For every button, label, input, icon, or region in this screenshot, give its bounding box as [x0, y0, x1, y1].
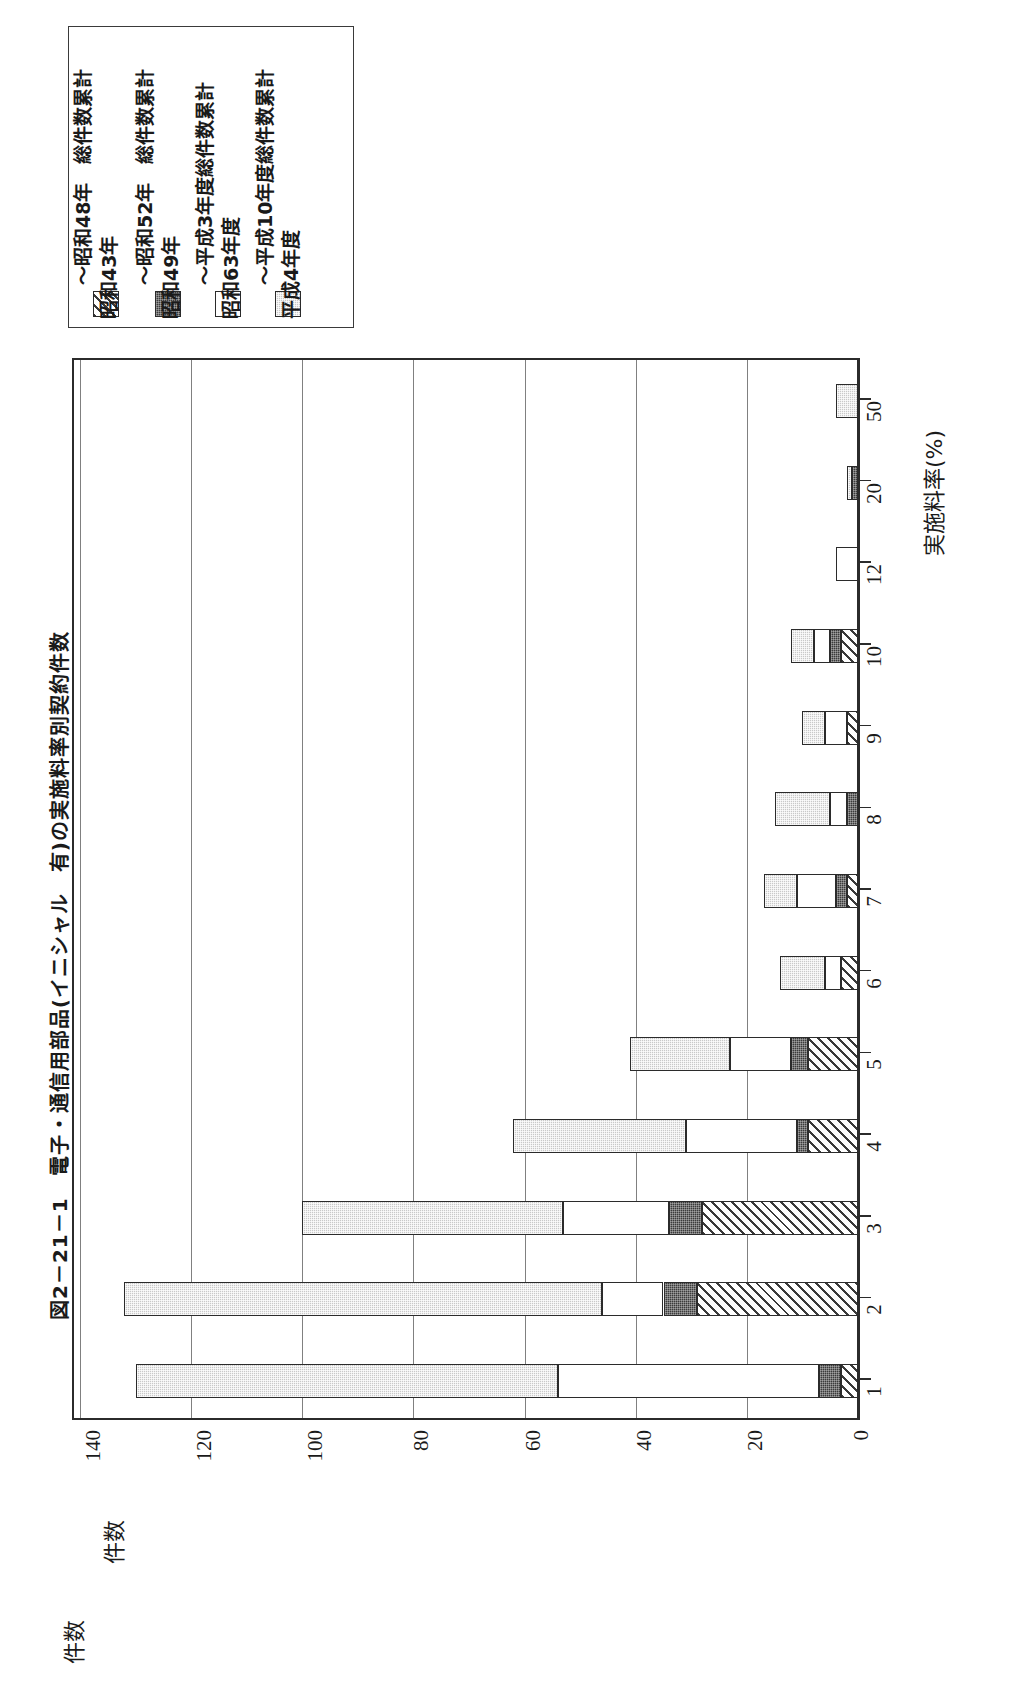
- category-tick: [860, 1297, 871, 1299]
- category-tick: [860, 643, 871, 645]
- bar-segment: [602, 1282, 663, 1316]
- bar-segment: [563, 1201, 669, 1235]
- legend-item-s43: 昭和43年～昭和48年 総件数累計: [87, 33, 131, 319]
- bar-segment: [830, 792, 847, 826]
- bar-segment: [852, 466, 858, 500]
- bar-segment: [686, 1119, 797, 1153]
- value-tick-label-0: 0: [849, 1430, 874, 1441]
- category-label-3: 3: [862, 1223, 887, 1234]
- bar-segment: [808, 1037, 858, 1071]
- bar-segment: [808, 1119, 858, 1153]
- bar-segment: [836, 874, 847, 908]
- bar-group-3: [74, 1201, 858, 1235]
- category-label-10: 10: [862, 646, 887, 667]
- bar-group-4: [74, 1119, 858, 1153]
- value-axis-title: 件数: [96, 1520, 128, 1564]
- bar-group-8: [74, 792, 858, 826]
- value-tick-label-100: 100: [304, 1430, 329, 1462]
- bar-segment: [841, 629, 858, 663]
- bar-segment: [775, 792, 831, 826]
- bar-segment: [797, 1119, 808, 1153]
- legend-label-primary: 平成4年度: [276, 230, 303, 319]
- legend-label-primary: 昭和63年度: [216, 217, 243, 319]
- bar-segment: [830, 629, 841, 663]
- category-label-12: 12: [862, 564, 887, 585]
- category-label-50: 50: [862, 401, 887, 422]
- bar-segment: [847, 711, 858, 745]
- bar-group-7: [74, 874, 858, 908]
- legend-label-secondary: ～平成3年度総件数累計: [190, 82, 217, 285]
- bar-group-20: [74, 466, 858, 500]
- category-label-2: 2: [862, 1305, 887, 1316]
- value-tick-label-40: 40: [632, 1430, 657, 1451]
- legend-item-h4: 平成4年度～平成10年度総件数累計: [269, 33, 313, 319]
- category-label-6: 6: [862, 978, 887, 989]
- category-tick: [860, 561, 871, 563]
- category-label-1: 1: [862, 1386, 887, 1397]
- value-tick-label-120: 120: [192, 1430, 217, 1462]
- bar-segment: [791, 629, 813, 663]
- bar-segment: [124, 1282, 602, 1316]
- bar-group-6: [74, 956, 858, 990]
- category-tick: [860, 888, 871, 890]
- legend-item-s49: 昭和49年～昭和52年 総件数累計: [149, 33, 193, 319]
- bar-segment: [630, 1037, 730, 1071]
- bar-segment: [814, 629, 831, 663]
- legend-label-secondary: ～昭和48年 総件数累計: [68, 69, 95, 285]
- category-label-7: 7: [862, 896, 887, 907]
- bar-segment: [697, 1282, 858, 1316]
- value-tick-label-20: 20: [743, 1430, 768, 1451]
- bar-segment: [780, 956, 824, 990]
- bar-segment: [836, 547, 858, 581]
- category-axis-title: 実施料率(%): [916, 430, 948, 556]
- bar-segment: [847, 466, 853, 500]
- legend-label-secondary: ～平成10年度総件数累計: [250, 69, 277, 285]
- bar-group-1: [74, 1364, 858, 1398]
- category-tick: [860, 1133, 871, 1135]
- bar-segment: [797, 874, 836, 908]
- bar-segment: [702, 1201, 858, 1235]
- bar-group-10: [74, 629, 858, 663]
- value-tick-label-140: 140: [81, 1430, 106, 1462]
- bar-segment: [669, 1201, 702, 1235]
- bar-segment: [764, 874, 797, 908]
- bar-segment: [825, 711, 847, 745]
- value-axis: 020406080100120140: [72, 1422, 860, 1542]
- bar-segment: [791, 1037, 808, 1071]
- bar-segment: [302, 1201, 563, 1235]
- plot-area: [72, 358, 860, 1420]
- legend-label-primary: 昭和43年: [94, 236, 121, 319]
- bar-segment: [136, 1364, 558, 1398]
- category-axis: 50201210987654321: [860, 358, 872, 1420]
- category-tick: [860, 480, 871, 482]
- bar-segment: [847, 792, 858, 826]
- bar-segment: [664, 1282, 697, 1316]
- bar-segment: [730, 1037, 791, 1071]
- category-tick: [860, 1378, 871, 1380]
- bar-group-50: [74, 384, 858, 418]
- category-tick: [860, 398, 871, 400]
- category-label-20: 20: [862, 483, 887, 504]
- bar-segment: [802, 711, 824, 745]
- value-axis-title-repeat: 件数: [56, 1620, 88, 1664]
- bar-segment: [513, 1119, 685, 1153]
- legend-item-s63: 昭和63年度～平成3年度総件数累計: [209, 33, 253, 319]
- bar-group-2: [74, 1282, 858, 1316]
- bar-segment: [841, 956, 858, 990]
- category-tick: [860, 1215, 871, 1217]
- bar-segment: [836, 384, 858, 418]
- page-title: 図2－21－1 電子・通信用部品(イニシャル 有)の実施料率別契約件数: [44, 631, 73, 1320]
- legend-label-secondary: ～昭和52年 総件数累計: [130, 69, 157, 285]
- category-tick: [860, 807, 871, 809]
- category-label-4: 4: [862, 1141, 887, 1152]
- value-tick-label-60: 60: [521, 1430, 546, 1451]
- category-tick: [860, 725, 871, 727]
- bar-group-12: [74, 547, 858, 581]
- category-tick: [860, 1052, 871, 1054]
- bar-segment: [558, 1364, 819, 1398]
- title-container: 図2－21－1 電子・通信用部品(イニシャル 有)の実施料率別契約件数: [0, 0, 64, 1694]
- category-tick: [860, 970, 871, 972]
- chart-legend: 平成4年度～平成10年度総件数累計昭和63年度～平成3年度総件数累計昭和49年～…: [68, 26, 354, 328]
- bar-segment: [819, 1364, 841, 1398]
- category-label-8: 8: [862, 815, 887, 826]
